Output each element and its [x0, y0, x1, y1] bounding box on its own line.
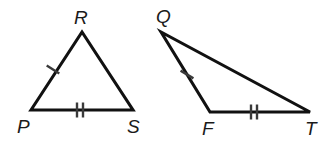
figure-canvas: PRSQFT: [0, 0, 328, 149]
vertex-label-f: F: [202, 118, 215, 139]
vertex-label-r: R: [74, 7, 88, 28]
vertex-label-q: Q: [156, 6, 171, 27]
vertex-label-s: S: [127, 116, 140, 137]
geometry-figure: PRSQFT: [0, 0, 328, 149]
vertex-label-p: P: [17, 116, 30, 137]
vertex-label-t: T: [305, 118, 318, 139]
